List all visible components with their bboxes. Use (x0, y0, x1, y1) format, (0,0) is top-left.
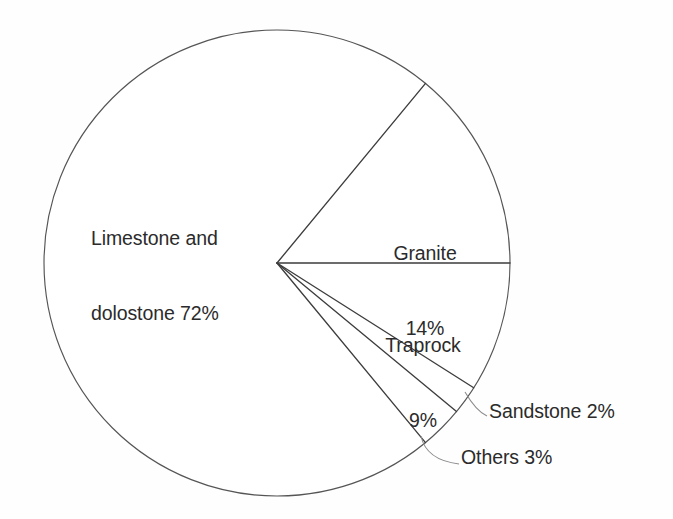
slice-label-traprock-value: 9% (358, 408, 488, 433)
slice-label-traprock-name: Traprock (358, 333, 488, 358)
slice-label-limestone-and-dolostone: Limestone and dolostone 72% (91, 176, 219, 376)
slice-label-limestone-line1: Limestone and (91, 226, 219, 251)
pie-chart: Limestone and dolostone 72% Granite 14% … (0, 0, 673, 519)
slice-label-limestone-line2: dolostone 72% (91, 301, 219, 326)
slice-label-granite-name: Granite (360, 241, 490, 266)
slice-label-sandstone: Sandstone 2% (489, 399, 615, 424)
slice-label-others: Others 3% (461, 445, 552, 470)
